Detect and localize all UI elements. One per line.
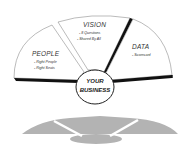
diagram-shadow bbox=[22, 116, 178, 144]
business-model-diagram: PEOPLE - Right People - Right Seats VISI… bbox=[0, 0, 195, 153]
vision-item-2: - Shared By All bbox=[77, 37, 101, 41]
vision-item-1: - 8 Questions bbox=[79, 31, 101, 35]
data-title: DATA bbox=[132, 43, 149, 50]
people-item-2: - Right Seats bbox=[34, 66, 55, 70]
data-item-1: - Scorecard bbox=[132, 53, 152, 57]
people-item-1: - Right People bbox=[34, 60, 57, 64]
center-line-2: BUSINESS bbox=[80, 87, 111, 93]
people-title: PEOPLE bbox=[32, 50, 60, 57]
center-line-1: YOUR bbox=[86, 78, 104, 84]
vision-title: VISION bbox=[83, 21, 106, 28]
